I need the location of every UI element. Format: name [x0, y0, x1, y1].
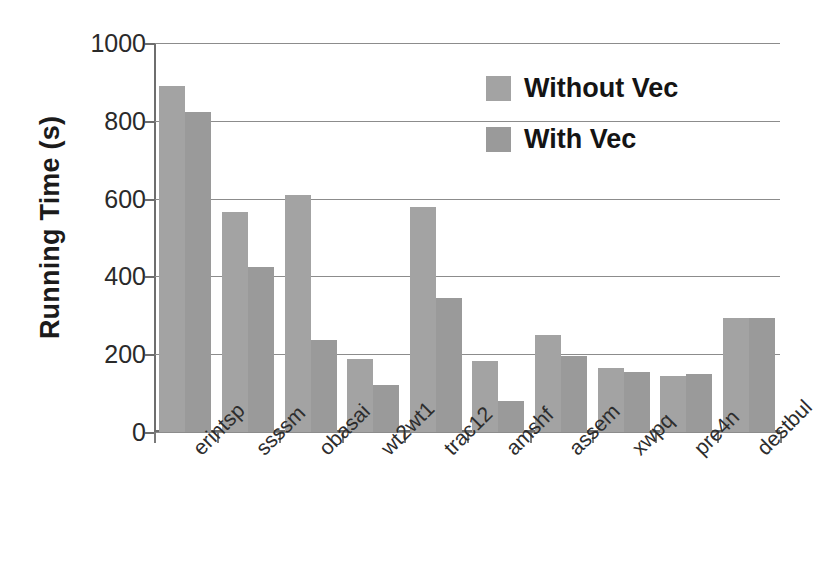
legend-swatch-icon	[486, 76, 511, 101]
bar	[561, 356, 587, 432]
legend-item[interactable]: Without Vec	[486, 73, 678, 104]
bar	[285, 195, 311, 432]
bar-chart: Running Time (s) 10008006004002000 Witho…	[0, 0, 821, 565]
x-tick-mark	[154, 432, 156, 443]
bar	[185, 112, 211, 432]
y-tick-label: 1000	[60, 29, 146, 58]
plot-area	[154, 43, 780, 432]
y-tick-label: 0	[60, 418, 146, 447]
legend-label: With Vec	[524, 124, 636, 155]
bar	[311, 340, 337, 432]
bar	[436, 298, 462, 432]
bars-layer	[154, 43, 780, 432]
y-tick-label: 800	[60, 106, 146, 135]
chart-legend: Without VecWith Vec	[486, 73, 678, 175]
legend-item[interactable]: With Vec	[486, 124, 678, 155]
bar	[749, 318, 775, 432]
y-axis-tick-labels: 10008006004002000	[58, 0, 146, 565]
legend-label: Without Vec	[524, 73, 678, 104]
bar	[248, 267, 274, 432]
bar	[222, 212, 248, 432]
bar	[159, 86, 185, 432]
x-axis-tick-labels: erintspssssmobasaiwt2wt1trac12amshfassem…	[154, 443, 780, 563]
legend-swatch-icon	[486, 127, 511, 152]
y-tick-label: 600	[60, 184, 146, 213]
y-tick-label: 200	[60, 340, 146, 369]
y-tick-label: 400	[60, 262, 146, 291]
